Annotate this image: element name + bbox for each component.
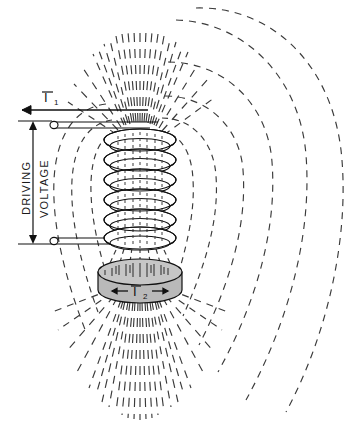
field-lines-group (54, 8, 343, 412)
induction-diagram: I 2 I 1 DRIVING VOLTAGE (0, 0, 363, 443)
field-spray-bottom (52, 290, 228, 420)
voltage-label: VOLTAGE (38, 159, 50, 218)
primary-current-arrowhead (22, 106, 31, 115)
field-spray-top (68, 30, 214, 135)
driving-label: DRIVING (20, 161, 32, 215)
dimension-arrow-up (29, 121, 37, 130)
field-line-3 (168, 62, 273, 372)
field-line-2 (176, 20, 307, 400)
primary-current-subscript: 1 (54, 98, 59, 107)
dimension-arrow-down (29, 235, 37, 244)
field-line-4 (165, 96, 244, 345)
secondary-current-subscript: 2 (143, 292, 148, 301)
conducting-disk (98, 259, 182, 303)
upper-lead-terminal (50, 121, 58, 128)
primary-current-indicator: I 1 (22, 90, 148, 114)
upper-lead-wire (54, 122, 158, 128)
field-line-left-3 (54, 104, 106, 332)
